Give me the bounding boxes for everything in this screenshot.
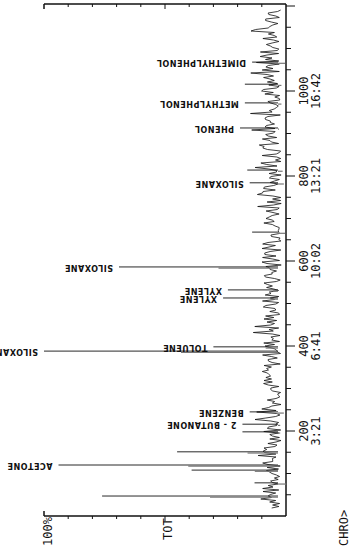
time-tick-label: 16:42 <box>309 73 323 109</box>
peak-label: SILOXANE <box>195 179 244 188</box>
chart-frame <box>44 4 286 516</box>
peak-label: METHYLPHENOL <box>160 99 239 108</box>
peak-label: SILOXANE <box>64 263 113 272</box>
peak-lines <box>44 62 286 497</box>
noise-trace <box>251 10 282 508</box>
peak-labels: ACETONE2 - BUTANONEBENZENESILOXANETOLUEN… <box>0 58 246 470</box>
peak-label: BENZENE <box>199 408 244 417</box>
y-axis-label: TOT <box>161 518 175 540</box>
peak-label: SILOXANE <box>0 347 38 356</box>
time-tick-label: 6:41 <box>309 332 323 361</box>
peak-label: PHENOL <box>194 124 234 133</box>
footer-label: CHRO> <box>337 510 351 546</box>
peak-label: 2 - BUTANONE <box>167 420 237 429</box>
scan-time-tick-labels: 2003:214006:4160010:0280013:21100016:42 <box>297 73 323 446</box>
chromatogram-chart: ACETONE2 - BUTANONEBENZENESILOXANETOLUEN… <box>0 0 355 548</box>
baseline-noise-trace <box>251 10 282 508</box>
y-max-label: 100% <box>41 516 55 546</box>
time-tick-label: 3:21 <box>309 417 323 446</box>
peak-label: ACETONE <box>7 461 52 470</box>
time-tick-label: 10:02 <box>309 243 323 279</box>
peak-label: DIMETHYLPHENOL <box>156 58 246 67</box>
axis-ticks <box>68 4 295 521</box>
peak-label: XYLENE <box>184 286 222 295</box>
time-tick-label: 13:21 <box>309 158 323 194</box>
peak-label: TOLUENE <box>163 343 208 352</box>
